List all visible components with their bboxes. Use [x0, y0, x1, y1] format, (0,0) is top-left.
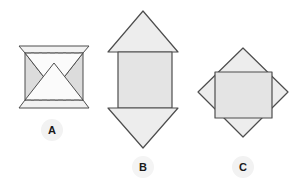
figure-c-label: C	[239, 161, 247, 173]
figure-b-label: B	[139, 161, 147, 173]
figure-a-top-flap	[19, 46, 89, 53]
figure-c-inner-square	[215, 72, 272, 118]
figure-a-label: A	[48, 124, 56, 136]
figure-b-center-rectangle	[118, 52, 172, 108]
figure-a-bottom-flap	[19, 100, 89, 108]
figure-canvas: A B C	[0, 0, 307, 189]
